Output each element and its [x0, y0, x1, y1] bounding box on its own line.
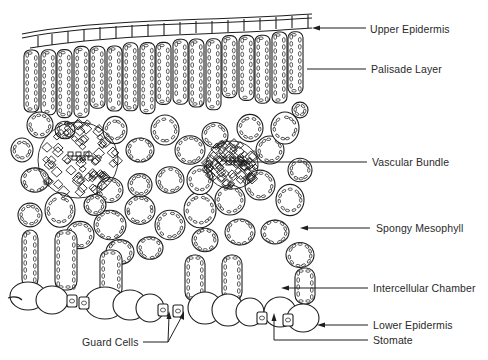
- label-upper-epidermis: Upper Epidermis: [370, 23, 450, 35]
- mesophyll-region: [11, 102, 315, 304]
- label-guard-cells: Guard Cells: [82, 336, 139, 348]
- label-spongy-mesophyll: Spongy Mesophyll: [376, 222, 463, 234]
- lower-epidermis: [8, 282, 319, 332]
- leaf-cross-section-illustration: [0, 0, 488, 360]
- label-lower-epidermis: Lower Epidermis: [373, 319, 453, 331]
- label-stomate: Stomate: [373, 334, 413, 346]
- palisade-layer: [24, 32, 303, 118]
- label-palisade-layer: Palisade Layer: [371, 63, 442, 75]
- label-vascular-bundle: Vascular Bundle: [372, 156, 449, 168]
- label-intercellular-chamber: Intercellular Chamber: [373, 282, 475, 294]
